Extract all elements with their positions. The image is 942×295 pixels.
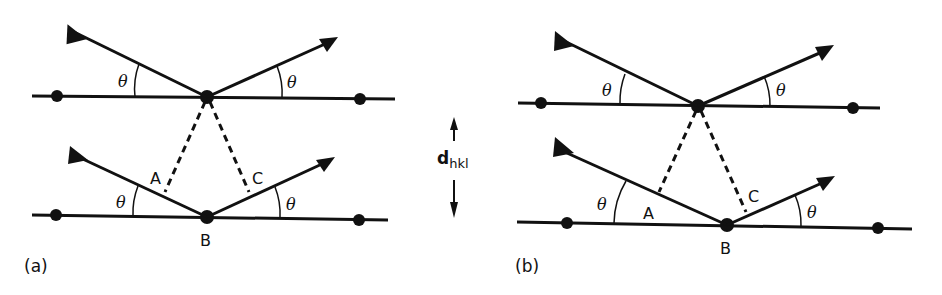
theta-label: θ (118, 72, 128, 91)
angle-arc (275, 187, 280, 218)
point-label-C: C (252, 169, 263, 188)
d-spacing-indicator: dhkl (437, 117, 469, 218)
point-label-A: A (643, 204, 654, 223)
atom (51, 90, 63, 102)
path-difference-dashed-line (701, 111, 746, 212)
theta-label: θ (807, 203, 817, 222)
panel-b: θ θ θ θ A C B (b) (515, 31, 912, 276)
angle-arc (133, 186, 138, 216)
atom (535, 97, 547, 109)
panel-label-b: (b) (515, 256, 539, 276)
lower-plane-line (517, 222, 912, 229)
angle-arc (135, 64, 139, 97)
theta-label: θ (597, 195, 607, 214)
theta-label: θ (287, 73, 297, 92)
atom (561, 217, 573, 229)
incident-ray-lower (72, 154, 207, 217)
angle-arc (277, 66, 282, 98)
atom (353, 214, 365, 226)
point-label-B: B (200, 231, 211, 250)
incident-ray-upper (70, 30, 207, 97)
incident-ray-upper (558, 38, 698, 106)
reflected-ray-lower (207, 164, 322, 217)
atom (847, 102, 859, 114)
reflected-ray-upper (698, 52, 822, 106)
path-difference-dashed-line (210, 102, 249, 192)
theta-label: θ (286, 195, 296, 214)
point-label-B: B (720, 239, 731, 258)
theta-label: θ (602, 81, 612, 100)
arrowhead-icon (554, 31, 574, 51)
reflected-ray-upper (207, 44, 325, 97)
atom (354, 93, 366, 105)
d-hkl-label: dhkl (437, 148, 469, 171)
theta-label: θ (116, 193, 126, 212)
arrow-down-icon (450, 202, 458, 218)
bragg-diagram: θ θ θ θ A C B (a) dhkl (0, 0, 942, 295)
angle-arc (620, 74, 625, 104)
angle-arc (795, 195, 801, 226)
path-difference-dashed-line (659, 111, 696, 192)
panel-label-a: (a) (24, 256, 48, 276)
atom (50, 209, 62, 221)
angle-arc (764, 76, 770, 107)
path-difference-dashed-line (165, 102, 205, 192)
arrowhead-icon (65, 23, 86, 44)
theta-label: θ (776, 81, 786, 100)
point-label-A: A (150, 169, 161, 188)
arrow-up-icon (450, 117, 458, 130)
panel-a: θ θ θ θ A C B (a) (24, 23, 395, 276)
point-label-C: C (748, 187, 759, 206)
atom (872, 222, 884, 234)
angle-arc (614, 181, 626, 223)
